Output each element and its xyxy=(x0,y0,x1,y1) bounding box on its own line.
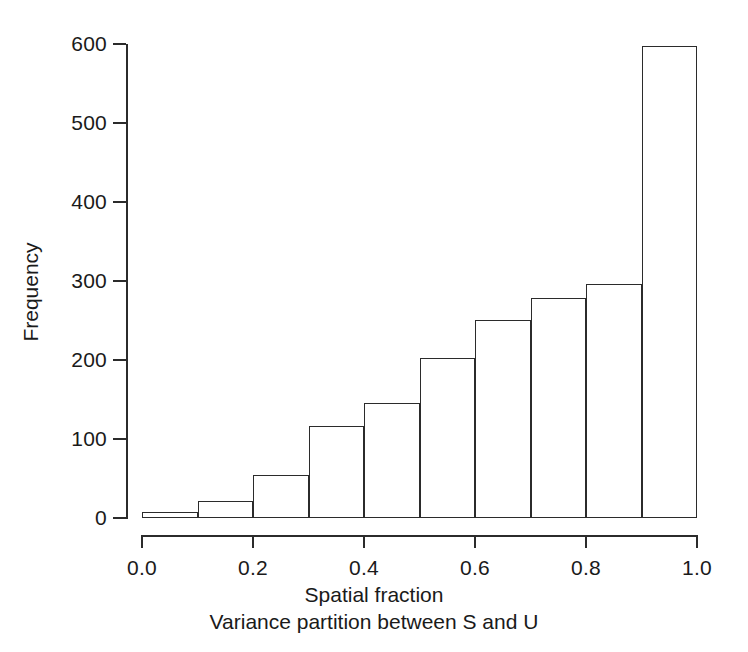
x-axis-tick-label: 0.0 xyxy=(102,556,182,580)
y-axis-tick xyxy=(113,517,126,519)
x-axis-tick xyxy=(252,535,254,548)
x-axis-title: Spatial fraction xyxy=(0,583,748,607)
x-axis-tick-label: 1.0 xyxy=(657,556,737,580)
y-axis-tick-label: 200 xyxy=(43,349,107,370)
histogram-bar xyxy=(309,426,365,518)
x-axis-tick xyxy=(474,535,476,548)
histogram-bar xyxy=(364,403,420,518)
y-axis-tick-label: 600 xyxy=(43,33,107,54)
histogram-bar xyxy=(586,284,642,518)
x-axis-subtitle: Variance partition between S and U xyxy=(0,610,748,634)
histogram-bar xyxy=(642,46,698,518)
y-axis-tick-label: 100 xyxy=(43,428,107,449)
x-axis-tick-label: 0.8 xyxy=(546,556,626,580)
histogram-bar xyxy=(142,512,198,518)
y-axis-tick xyxy=(113,280,126,282)
histogram-bar xyxy=(420,358,476,518)
x-axis-tick-label: 0.6 xyxy=(435,556,515,580)
y-axis-tick xyxy=(113,122,126,124)
y-axis-tick xyxy=(113,201,126,203)
y-axis-tick xyxy=(113,438,126,440)
y-axis-tick xyxy=(113,43,126,45)
histogram-figure: 0100200300400500600 Frequency 0.00.20.40… xyxy=(0,0,748,652)
histogram-bar xyxy=(531,298,587,518)
x-axis-tick-label: 0.2 xyxy=(213,556,293,580)
y-axis-tick-label: 0 xyxy=(43,507,107,528)
x-axis-tick-label: 0.4 xyxy=(324,556,404,580)
plot-area xyxy=(142,44,697,518)
y-axis-tick-label: 300 xyxy=(43,270,107,291)
histogram-bar xyxy=(253,475,309,518)
x-axis-tick xyxy=(585,535,587,548)
histogram-bar xyxy=(475,320,531,518)
x-axis-tick xyxy=(141,535,143,548)
histogram-bar xyxy=(198,501,254,518)
x-axis-tick xyxy=(696,535,698,548)
x-axis-tick xyxy=(363,535,365,548)
x-axis-line xyxy=(142,535,698,537)
y-axis-tick-label: 400 xyxy=(43,191,107,212)
y-axis-title: Frequency xyxy=(19,192,43,392)
y-axis-line xyxy=(126,44,128,519)
y-axis-tick-label: 500 xyxy=(43,112,107,133)
y-axis-tick xyxy=(113,359,126,361)
